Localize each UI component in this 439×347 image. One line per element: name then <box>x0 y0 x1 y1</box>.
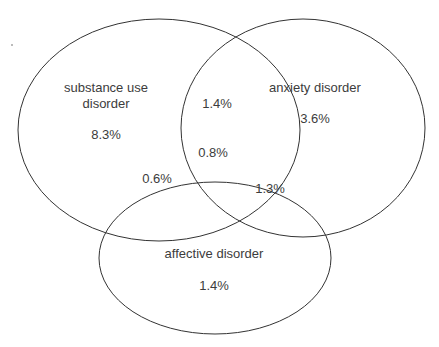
substance-use-disorder-label: substance use disorder <box>64 80 148 112</box>
anxiety-disorder-label: anxiety disorder <box>269 80 361 96</box>
substance-label-line-2: disorder <box>64 96 148 112</box>
anxiety-disorder-circle <box>181 19 425 237</box>
anxiety-affective-intersection-value: 1.3% <box>255 181 285 197</box>
all-three-intersection-value: 0.8% <box>198 145 228 161</box>
substance-anxiety-intersection-value: 1.4% <box>202 96 232 112</box>
venn-diagram <box>0 0 439 347</box>
substance-affective-intersection-value: 0.6% <box>142 171 172 187</box>
substance-use-disorder-circle <box>18 19 300 241</box>
substance-label-line-1: substance use <box>64 80 148 96</box>
substance-only-value: 8.3% <box>91 127 121 143</box>
stray-dot <box>11 44 13 46</box>
affective-only-value: 1.4% <box>199 278 229 294</box>
affective-disorder-label: affective disorder <box>165 246 264 262</box>
anxiety-only-value: 3.6% <box>300 111 330 127</box>
